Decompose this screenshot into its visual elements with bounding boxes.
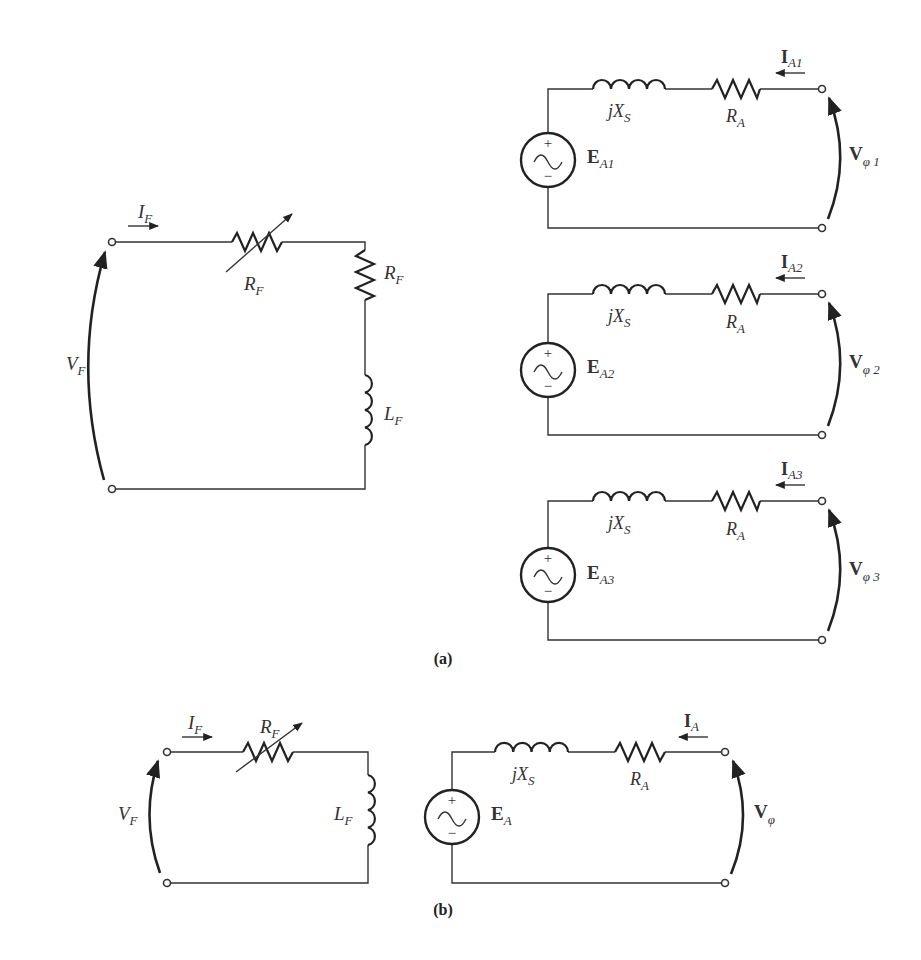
- resistor-icon: [712, 492, 760, 510]
- svg-text:+: +: [544, 550, 552, 566]
- terminal-icon: [819, 86, 826, 93]
- ac-source-icon: + −: [521, 548, 575, 602]
- reactance-label: jXS: [606, 513, 631, 537]
- voltage-arrow-icon: [731, 761, 743, 874]
- ac-source-icon: + −: [425, 790, 479, 844]
- inductor-icon: [593, 492, 665, 501]
- source-label: EA2: [587, 356, 615, 381]
- inductor-icon: [365, 375, 372, 445]
- resistance-label: RA: [629, 769, 649, 793]
- resistance-label: RA: [725, 106, 745, 130]
- terminal-icon: [819, 432, 826, 439]
- svg-text:+: +: [544, 135, 552, 151]
- caption-a: (a): [434, 650, 453, 668]
- terminal-icon: [819, 498, 826, 505]
- reactance-label: jXS: [510, 764, 535, 788]
- field-right-wire: [115, 300, 365, 489]
- svg-text:−: −: [448, 825, 456, 841]
- svg-text:−: −: [544, 583, 552, 599]
- terminal-icon: [722, 880, 729, 887]
- voltage-arrow-icon: [88, 252, 105, 480]
- reactance-label: jXS: [606, 101, 631, 125]
- terminal-icon: [164, 749, 171, 756]
- terminal-icon: [109, 486, 116, 493]
- terminal-icon: [722, 749, 729, 756]
- variable-resistor-label: RF: [243, 273, 265, 298]
- inductor-label: LF: [383, 403, 404, 428]
- phase-voltage-label: Vφ: [754, 801, 775, 827]
- caption-b: (b): [433, 901, 453, 919]
- reactance-label: jXS: [606, 306, 631, 330]
- inductor-icon: [593, 285, 665, 294]
- svg-text:+: +: [544, 345, 552, 361]
- resistor-icon: [615, 743, 665, 761]
- phase-voltage-label: Vφ 2: [849, 351, 880, 377]
- voltage-arrow-icon: [149, 761, 160, 873]
- svg-text:−: −: [544, 378, 552, 394]
- variable-resistor-icon: [226, 214, 292, 272]
- ac-source-icon: + −: [521, 133, 575, 187]
- ac-source-icon: + −: [521, 343, 575, 397]
- svg-text:−: −: [544, 168, 552, 184]
- panel-b-armature-circuit: + − IA jXS RA EA Vφ: [425, 711, 775, 887]
- armature-current-label: IA2: [781, 252, 803, 275]
- panel-a-armature-circuit-3: + − IA3 jXS RA EA3 Vφ 3: [521, 459, 880, 644]
- inductor-icon: [368, 775, 375, 845]
- panel-a-field-circuit: IF RF RF LF VF: [66, 201, 405, 493]
- source-label: EA3: [587, 562, 615, 587]
- panel-a-armature-circuit-1: + − IA1 jXS RA EA1 Vφ 1: [521, 47, 880, 232]
- terminal-icon: [109, 239, 116, 246]
- resistor-icon: [356, 250, 374, 300]
- panel-b-field-circuit: IF RF LF VF: [118, 712, 375, 887]
- voltage-arrow-icon: [828, 303, 840, 426]
- fixed-resistor-label: RF: [383, 262, 405, 287]
- voltage-arrow-icon: [828, 510, 840, 631]
- svg-text:+: +: [448, 792, 456, 808]
- terminal-icon: [164, 880, 171, 887]
- resistance-label: RA: [725, 312, 745, 336]
- armature-current-label: IA: [684, 711, 699, 734]
- armature-current-label: IA3: [781, 459, 803, 482]
- source-label: EA1: [587, 146, 614, 171]
- resistance-label: RA: [725, 519, 745, 543]
- voltage-arrow-icon: [828, 98, 840, 219]
- armature-current-label: IA1: [781, 47, 802, 70]
- inductor-label: LF: [333, 803, 354, 828]
- source-label: EA: [491, 803, 512, 828]
- terminal-icon: [819, 637, 826, 644]
- terminal-icon: [819, 291, 826, 298]
- terminal-icon: [819, 225, 826, 232]
- resistor-icon: [712, 80, 760, 98]
- inductor-icon: [495, 743, 568, 752]
- field-current-label: IF: [137, 201, 153, 226]
- resistor-icon: [712, 285, 760, 303]
- phase-voltage-label: Vφ 1: [849, 143, 880, 169]
- inductor-icon: [593, 80, 665, 89]
- panel-a-armature-circuit-2: + − IA2 jXS RA EA2 Vφ 2: [521, 252, 880, 439]
- field-top-wire: [115, 242, 365, 250]
- field-voltage-label: VF: [66, 353, 87, 378]
- field-current-label: IF: [187, 712, 203, 737]
- variable-resistor-label: RF: [259, 716, 281, 741]
- field-voltage-label: VF: [118, 803, 139, 828]
- phase-voltage-label: Vφ 3: [849, 558, 880, 584]
